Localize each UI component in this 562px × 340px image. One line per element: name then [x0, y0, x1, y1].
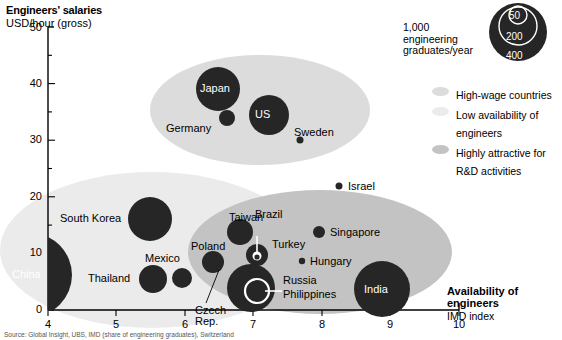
legend-item-low-availability: Low availability of engineers: [432, 105, 558, 141]
size-legend-caption: 1,000 engineering graduates/year: [403, 22, 481, 57]
legend-swatch-rnd-attractive: [432, 145, 449, 154]
legend-item-rnd-attractive: Highly attractive for R&D activities: [432, 143, 558, 179]
x-tick-6: 6: [175, 318, 195, 330]
size-legend-value-400: 400: [506, 50, 523, 61]
bubble-czech: [216, 265, 221, 270]
bubble-mexico: [172, 268, 192, 288]
legend-label-high-wage: High-wage countries: [456, 89, 552, 101]
legend-label-low-availability: Low availability of engineers: [456, 109, 538, 139]
y-tick-20: 20: [20, 190, 42, 202]
label-brazil: Brazil: [255, 208, 283, 220]
label-hungary: Hungary: [310, 255, 352, 267]
label-us: US: [255, 108, 270, 120]
y-tick-10: 10: [20, 246, 42, 258]
label-poland: Poland: [191, 240, 225, 252]
bubble-israel: [336, 183, 343, 190]
x-axis-title: Availability of engineers: [447, 286, 547, 309]
czech-rep-line2: Rep.: [195, 316, 241, 327]
y-tick-50: 50: [20, 21, 42, 33]
label-israel: Israel: [348, 180, 375, 192]
size-legend-value-200: 200: [506, 31, 523, 42]
label-thailand: Thailand: [88, 272, 130, 284]
legend-item-high-wage: High-wage countries: [432, 85, 558, 103]
size-legend-caption-line2: graduates/year: [403, 45, 481, 57]
label-japan: Japan: [200, 82, 230, 94]
label-china: China: [12, 268, 41, 280]
x-tick-7: 7: [243, 318, 263, 330]
label-mexico: Mexico: [145, 252, 180, 264]
label-singapore: Singapore: [330, 226, 380, 238]
size-legend-value-50: 50: [509, 10, 520, 21]
label-germany: Germany: [166, 122, 211, 134]
x-axis-title-line2: engineers: [447, 298, 547, 310]
label-turkey: Turkey: [272, 238, 305, 250]
x-tick-5: 5: [106, 318, 126, 330]
label-south-korea: South Korea: [60, 212, 121, 224]
bubble-brazil-core: [254, 254, 259, 259]
x-axis-unit-label: IMD index: [447, 310, 494, 322]
bubble-south-korea: [128, 197, 172, 241]
source-note: Source: Global Insight, UBS, IMD (share …: [4, 331, 234, 338]
label-india: India: [364, 283, 388, 295]
x-tick-8: 8: [312, 318, 332, 330]
bubble-germany: [219, 110, 235, 126]
bubble-thailand: [139, 265, 167, 293]
bubble-hungary: [299, 258, 305, 264]
czech-rep-annotation: Czech Rep.: [195, 305, 241, 327]
legend-swatch-low-availability: [432, 107, 449, 116]
label-russia: Russia: [283, 274, 317, 286]
y-tick-40: 40: [20, 77, 42, 89]
x-tick-9: 9: [380, 318, 400, 330]
x-tick-4: 4: [38, 318, 58, 330]
y-tick-30: 30: [20, 133, 42, 145]
y-tick-0: 0: [20, 303, 42, 315]
label-philippines: Philippines: [283, 288, 336, 300]
legend-label-rnd-attractive: Highly attractive for R&D activities: [456, 147, 546, 177]
group-legend: High-wage countries Low availability of …: [432, 85, 558, 181]
legend-swatch-high-wage: [432, 87, 449, 96]
bubble-singapore: [313, 226, 325, 238]
label-sweden: Sweden: [294, 126, 334, 138]
x-axis-title-line1: Availability of: [447, 286, 547, 298]
size-legend-caption-line1: 1,000 engineering: [403, 22, 481, 45]
